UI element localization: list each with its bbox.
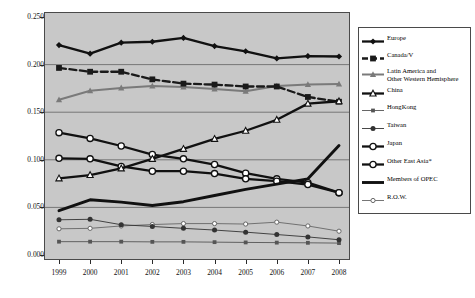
data-point <box>211 43 217 49</box>
data-point <box>56 65 62 71</box>
y-axis-tick-label: 0.250 <box>4 13 44 20</box>
data-point <box>336 53 342 59</box>
legend-swatch-icon <box>362 66 384 77</box>
data-point <box>87 69 93 75</box>
legend-item-latin-america-and-other-western-hemisphere[interactable]: Latin America and Other Western Hemisphe… <box>362 66 459 78</box>
data-point <box>306 224 310 228</box>
legend-item-canada-v[interactable]: Canada/V <box>362 50 413 62</box>
data-point <box>337 237 342 242</box>
data-point <box>57 217 62 222</box>
legend-label: Europe <box>387 33 406 42</box>
data-point <box>243 84 249 90</box>
data-point <box>87 51 93 57</box>
data-point <box>370 38 376 44</box>
data-point <box>212 228 217 233</box>
data-point <box>243 48 249 54</box>
y-axis-tick-label: 0.150 <box>4 108 44 115</box>
series-line <box>59 101 339 178</box>
x-axis-tick-label: 2003 <box>166 269 200 276</box>
data-point <box>87 156 93 162</box>
data-point <box>244 222 248 226</box>
data-point <box>88 226 92 230</box>
data-point <box>211 171 217 177</box>
data-point <box>181 221 185 225</box>
series-line <box>59 158 339 192</box>
data-point <box>87 135 93 141</box>
data-point <box>181 81 187 87</box>
data-point <box>119 222 124 227</box>
chart-container: 0.2500.2000.1500.1000.0500.000 199920002… <box>0 0 475 298</box>
x-axis-tick-label: 2005 <box>229 269 263 276</box>
data-point <box>244 241 248 245</box>
x-axis-tick-mark <box>339 260 340 264</box>
data-point <box>371 198 375 202</box>
data-point <box>370 143 376 149</box>
data-point <box>88 240 92 244</box>
data-point <box>118 69 124 75</box>
legend-item-r-o-w[interactable]: R.O.W. <box>362 192 407 204</box>
x-axis-tick-label: 2006 <box>260 269 294 276</box>
data-point <box>212 221 216 225</box>
x-axis-tick-label: 2007 <box>291 269 325 276</box>
data-point <box>274 117 280 123</box>
data-point <box>336 190 342 196</box>
data-point <box>305 234 310 239</box>
x-axis-tick-mark <box>59 260 60 264</box>
legend-item-taiwan[interactable]: Taiwan <box>362 120 406 132</box>
data-point <box>118 143 124 149</box>
x-axis-tick-mark <box>277 260 278 264</box>
data-point <box>88 217 93 222</box>
series-line <box>59 146 339 211</box>
data-point <box>180 156 186 162</box>
legend-swatch-icon <box>362 33 384 44</box>
data-point <box>149 39 155 45</box>
data-point <box>305 53 311 59</box>
data-point <box>274 232 279 237</box>
data-point <box>336 98 342 104</box>
legend-item-europe[interactable]: Europe <box>362 33 406 45</box>
data-point <box>371 109 375 113</box>
legend-label: China <box>387 85 403 94</box>
y-axis-tick-label: 0.050 <box>4 203 44 210</box>
data-point <box>119 240 123 244</box>
y-axis-tick-label: 0.000 <box>4 251 44 258</box>
data-point <box>182 240 186 244</box>
data-point <box>275 220 279 224</box>
legend-label: Latin America and Other Western Hemisphe… <box>387 66 459 83</box>
legend-label: Canada/V <box>387 50 413 59</box>
x-axis: 1999200020012002200320042005200620072008 <box>44 260 350 290</box>
x-axis-tick-mark <box>183 260 184 264</box>
legend-swatch-icon <box>362 102 384 113</box>
data-point <box>57 227 61 231</box>
data-point <box>371 126 376 131</box>
legend-item-members-of-opec[interactable]: Members of OPEC <box>362 174 438 186</box>
data-point <box>213 240 217 244</box>
chart-legend: EuropeCanada/VLatin America and Other We… <box>358 27 471 214</box>
plot-svg <box>45 13 349 259</box>
data-point <box>57 240 61 244</box>
x-axis-tick-mark <box>121 260 122 264</box>
legend-swatch-icon <box>362 156 384 167</box>
data-point <box>149 168 155 174</box>
x-axis-tick-mark <box>90 260 91 264</box>
data-point <box>274 84 280 90</box>
data-point <box>243 230 248 235</box>
x-axis-tick-label: 2002 <box>135 269 169 276</box>
data-point <box>181 226 186 231</box>
legend-item-hongkong[interactable]: HongKong <box>362 102 416 114</box>
x-axis-tick-label: 2008 <box>322 269 356 276</box>
data-point <box>211 161 217 167</box>
data-point <box>212 82 218 88</box>
legend-swatch-icon <box>362 138 384 149</box>
data-point <box>118 40 124 46</box>
legend-swatch-icon <box>362 174 384 185</box>
y-axis-tick-label: 0.200 <box>4 61 44 68</box>
series-line <box>59 242 339 243</box>
data-point <box>274 55 280 61</box>
data-point <box>149 76 155 82</box>
legend-item-other-east-asia[interactable]: Other East Asia* <box>362 156 432 168</box>
legend-item-japan[interactable]: Japan <box>362 138 402 150</box>
legend-label: R.O.W. <box>387 192 407 201</box>
legend-item-china[interactable]: China <box>362 85 403 97</box>
legend-label: Taiwan <box>387 120 406 129</box>
